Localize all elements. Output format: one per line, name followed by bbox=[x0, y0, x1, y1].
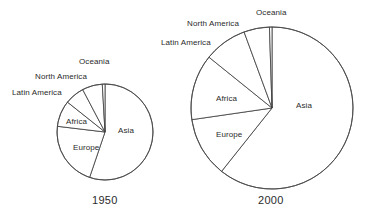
slice-label-africa: Africa bbox=[216, 94, 237, 103]
slice-label-latin-america: Latin America bbox=[161, 38, 211, 47]
pie-chart-2000 bbox=[191, 27, 353, 189]
slice-label-oceania: Oceania bbox=[79, 57, 110, 66]
slice-label-africa: Africa bbox=[66, 117, 87, 126]
pie-chart-1950 bbox=[57, 84, 153, 180]
slice-label-north-america: North America bbox=[187, 19, 239, 28]
chart-caption-pie-1950: 1950 bbox=[92, 194, 118, 206]
chart-page: OceaniaNorth AmericaLatin AmericaAsiaEur… bbox=[0, 0, 369, 223]
slice-label-europe: Europe bbox=[73, 143, 99, 152]
pie-charts-svg bbox=[0, 0, 369, 223]
slice-label-asia: Asia bbox=[296, 101, 312, 110]
chart-caption-pie-2000: 2000 bbox=[258, 194, 284, 206]
slice-label-north-america: North America bbox=[35, 72, 87, 81]
slice-label-europe: Europe bbox=[216, 130, 242, 139]
slice-label-oceania: Oceania bbox=[256, 8, 287, 17]
slice-label-latin-america: Latin America bbox=[12, 88, 62, 97]
slice-label-asia: Asia bbox=[118, 126, 134, 135]
